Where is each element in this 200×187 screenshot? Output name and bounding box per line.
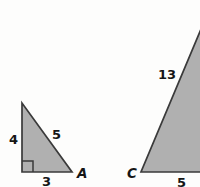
label-left-leg-4: 4 [9,133,18,146]
label-left-hypotenuse-5: 5 [52,128,61,141]
label-vertex-a: A [77,167,87,181]
geometry-figure: 4 5 3 A 13 C 5 [0,0,200,187]
label-vertex-c: C [127,167,137,181]
label-right-hypotenuse-13: 13 [158,68,176,81]
label-right-base-5: 5 [177,176,186,187]
triangles-canvas [0,0,200,187]
label-left-base-3: 3 [42,175,51,187]
